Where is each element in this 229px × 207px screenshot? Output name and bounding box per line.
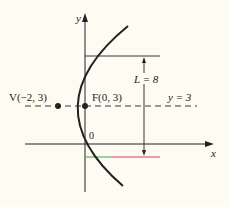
- latus-rectum-label: L = 8: [134, 74, 158, 85]
- vertex-point: [55, 103, 61, 109]
- y-axis-arrow-icon: [82, 13, 88, 22]
- focus-label: F(0, 3): [92, 92, 122, 103]
- vertex-label: V(−2, 3): [9, 92, 47, 103]
- measure-arrow-up-icon: [142, 57, 146, 63]
- symmetry-line-label: y = 3: [168, 92, 191, 103]
- y-axis-label: y: [76, 13, 81, 24]
- parabola-diagram: y x 0 V(−2, 3) F(0, 3) y = 3 L = 8: [0, 0, 229, 207]
- focus-point: [82, 103, 88, 109]
- diagram-canvas: [0, 0, 229, 207]
- x-axis-label: x: [211, 148, 216, 159]
- measure-arrow-down-icon: [142, 150, 146, 156]
- origin-label: 0: [89, 131, 94, 141]
